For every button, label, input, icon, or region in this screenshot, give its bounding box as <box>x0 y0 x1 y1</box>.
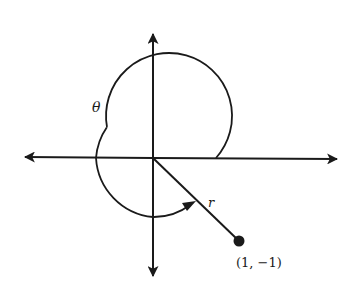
radius-label: r <box>208 195 215 210</box>
x-axis-positive <box>153 158 337 159</box>
x-axis-negative <box>25 157 153 158</box>
point-label: (1, −1) <box>236 255 282 270</box>
x-axis <box>25 157 337 159</box>
angle-theta-arc <box>96 53 232 217</box>
point-marker <box>234 236 245 247</box>
radius-ray <box>153 158 239 241</box>
theta-label: θ <box>92 99 101 115</box>
polar-diagram: θ r (1, −1) <box>0 0 362 292</box>
